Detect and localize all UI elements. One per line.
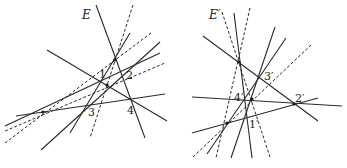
intersection-point: [237, 60, 240, 63]
intersection-point: [225, 121, 228, 124]
intersection-point: [250, 97, 253, 100]
point-label: 1: [99, 68, 106, 81]
left-intersection-points: [41, 58, 116, 113]
figure-right: E′ 3′2′4′1′: [192, 8, 342, 158]
dashed-line: [222, 12, 270, 157]
point-label: 1′: [249, 118, 259, 131]
right-dashed-lines: [193, 8, 311, 158]
figure-title-right: E′: [208, 8, 221, 22]
intersection-point: [113, 58, 116, 61]
intersection-point: [41, 110, 44, 113]
solid-line: [234, 13, 252, 158]
point-label: 3: [88, 106, 95, 119]
dashed-line: [193, 45, 311, 157]
point-label: 4′: [234, 91, 244, 104]
dashed-line: [5, 33, 151, 143]
point-label: 3′: [264, 70, 274, 83]
solid-line: [70, 33, 130, 133]
left-dashed-lines: [5, 5, 165, 143]
figure-left: E 1234: [5, 5, 167, 150]
solid-line: [192, 97, 342, 106]
intersection-point: [105, 83, 108, 86]
diagram-canvas: E 1234 E′ 3′2′4′1′: [0, 0, 347, 168]
point-label: 2: [126, 69, 133, 82]
solid-line: [207, 38, 286, 154]
solid-line: [41, 42, 160, 150]
dashed-line: [216, 8, 250, 158]
solid-line: [203, 36, 318, 121]
right-solid-lines: [192, 13, 342, 158]
left-solid-lines: [5, 5, 167, 150]
point-label: 2′: [295, 92, 305, 105]
figure-title-left: E: [81, 8, 91, 22]
point-label: 4: [127, 104, 134, 117]
